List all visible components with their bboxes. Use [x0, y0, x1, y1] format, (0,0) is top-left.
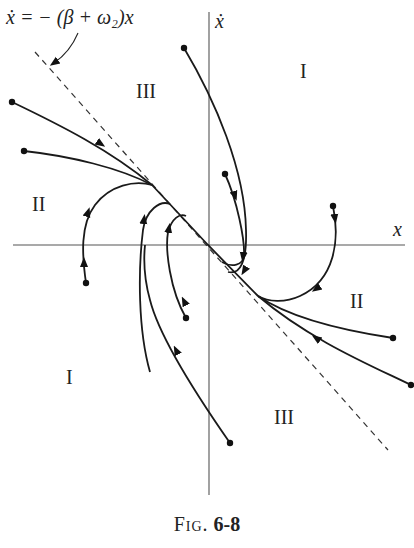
x-axis-label: x	[392, 218, 402, 240]
trajectory-l-1	[83, 183, 152, 283]
trajectory-r-1	[258, 296, 393, 338]
start-dot	[408, 382, 414, 388]
region-label-upper-left: III	[136, 80, 156, 102]
region-label-lower-left: I	[66, 366, 73, 388]
phase-portrait: ẋ = − (β + ω₂)x ẋ x I III II II I III	[0, 0, 414, 548]
region-label-upper-right: I	[300, 60, 307, 82]
y-axis-label: ẋ	[214, 10, 224, 32]
start-dot	[9, 99, 15, 105]
start-dot	[330, 203, 336, 209]
start-dot	[227, 440, 233, 446]
trajectory-ul-1	[12, 102, 152, 185]
asymptote-equation: ẋ = − (β + ω₂)x	[5, 6, 134, 29]
caption-prefix: Fig.	[174, 513, 209, 535]
trajectory-l-3-arrow	[184, 301, 187, 307]
region-label-lower-right: III	[274, 406, 294, 428]
region-label-left: II	[32, 193, 45, 215]
start-dot	[222, 171, 228, 177]
trajectory-ul-2	[24, 151, 152, 185]
start-dot	[181, 45, 187, 51]
region-label-right: II	[350, 290, 363, 312]
asymptote-line	[35, 52, 388, 450]
trajectory-top-arrow	[244, 266, 247, 271]
start-dot	[83, 280, 89, 286]
figure-caption: Fig. 6-8	[0, 513, 414, 536]
start-dot	[21, 148, 27, 154]
start-dot	[183, 315, 189, 321]
trajectory-l-3	[167, 215, 186, 318]
equation-pointer	[54, 33, 78, 63]
trajectory-ll-long-arrow	[176, 350, 179, 356]
trajectory-l-2	[140, 203, 170, 372]
trajectory-top	[184, 48, 246, 272]
trajectory-ul-1-arrow	[95, 140, 101, 144]
trajectory-r-loop	[258, 206, 336, 301]
start-dot	[390, 335, 396, 341]
caption-number: 6-8	[214, 513, 241, 535]
trajectory-ll-long	[144, 245, 230, 443]
